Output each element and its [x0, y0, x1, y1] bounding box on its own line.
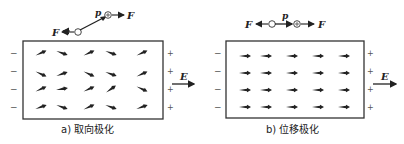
- dipole-icon: [136, 103, 149, 111]
- svg-text:−: −: [214, 48, 222, 58]
- svg-text:−: −: [10, 102, 18, 112]
- force-label-right: F: [317, 19, 326, 30]
- dipole-icon: [260, 71, 272, 75]
- dipole-icon: [338, 71, 350, 75]
- negative-surface-charges-a: − − − −: [10, 48, 18, 112]
- dipole-grid-b: [239, 54, 350, 109]
- svg-text:−: −: [10, 84, 18, 94]
- panel-b: F F p − − − − + + + + E: [214, 11, 396, 118]
- dipole-icon: [312, 105, 324, 109]
- dipole-icon: [83, 102, 96, 111]
- svg-text:+: +: [167, 67, 174, 76]
- dipole-icon: [136, 69, 149, 78]
- dipole-icon: [56, 86, 69, 92]
- dipole-icon: [239, 71, 251, 75]
- dipole-detail-b: [256, 21, 314, 28]
- dipole-icon: [286, 54, 298, 58]
- dipole-icon: [239, 105, 251, 109]
- dipole-icon: [35, 103, 48, 111]
- svg-text:+: +: [367, 49, 374, 58]
- dipole-icon: [286, 88, 298, 92]
- dipole-icon: [35, 48, 48, 57]
- dipole-icon: [105, 84, 117, 94]
- dipole-icon: [286, 105, 298, 109]
- dipole-icon: [83, 48, 96, 57]
- negative-charge-icon: [269, 21, 276, 28]
- dipole-icon: [35, 84, 48, 93]
- dipole-grid-a: [35, 48, 149, 111]
- dipole-icon: [239, 54, 251, 58]
- field-label-b: E: [380, 71, 389, 82]
- dipole-detail-a: [62, 12, 124, 36]
- negative-surface-charges-b: − − − −: [214, 48, 222, 112]
- dipole-icon: [136, 84, 149, 93]
- positive-surface-charges-b: + + + +: [367, 49, 374, 112]
- svg-text:−: −: [10, 48, 18, 58]
- dipole-icon: [260, 54, 272, 58]
- dipole-icon: [136, 48, 149, 57]
- dipole-icon: [312, 54, 324, 58]
- svg-text:−: −: [214, 84, 222, 94]
- dipole-moment-arrow: [80, 17, 105, 30]
- dipole-icon: [338, 105, 350, 109]
- dipole-icon: [260, 88, 272, 92]
- dipole-icon: [312, 71, 324, 75]
- dipole-label: p: [282, 11, 289, 21]
- force-label-right: F: [126, 10, 135, 21]
- svg-text:−: −: [10, 66, 18, 76]
- dipole-icon: [338, 88, 350, 92]
- dipole-icon: [105, 49, 118, 57]
- svg-text:−: −: [214, 66, 222, 76]
- dipole-icon: [35, 69, 48, 78]
- dipole-icon: [286, 71, 298, 75]
- svg-text:+: +: [367, 67, 374, 76]
- dipole-icon: [338, 54, 350, 58]
- dipole-icon: [56, 103, 69, 111]
- panel-a: F F p − − − − + + + + E: [10, 8, 194, 119]
- dipole-icon: [83, 84, 96, 93]
- svg-text:+: +: [367, 103, 374, 112]
- dipole-icon: [83, 69, 96, 78]
- svg-text:+: +: [367, 85, 374, 94]
- dipole-icon: [239, 88, 251, 92]
- dipole-icon: [56, 70, 69, 78]
- force-label-left: F: [244, 19, 253, 30]
- force-label-left: F: [51, 27, 60, 38]
- svg-text:−: −: [214, 102, 222, 112]
- svg-text:+: +: [167, 85, 174, 94]
- svg-text:+: +: [167, 103, 174, 112]
- dipole-icon: [260, 105, 272, 109]
- dipole-icon: [312, 88, 324, 92]
- svg-text:+: +: [167, 49, 174, 58]
- dipole-label: p: [95, 8, 102, 18]
- dipole-icon: [56, 49, 69, 57]
- positive-surface-charges-a: + + + +: [167, 49, 174, 112]
- dipole-icon: [105, 103, 118, 111]
- caption-orientation-polarization: a) 取向极化: [61, 121, 114, 136]
- caption-displacement-polarization: b) 位移极化: [266, 121, 319, 136]
- dipole-icon: [105, 70, 118, 78]
- field-label-a: E: [179, 71, 188, 82]
